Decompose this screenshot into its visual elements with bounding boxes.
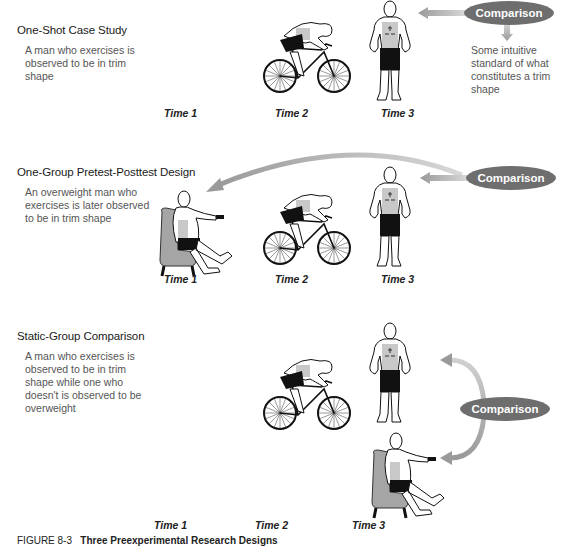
panel-1-title: One-Shot Case Study bbox=[17, 24, 127, 36]
panel-3-time-2: Time 2 bbox=[255, 519, 288, 531]
panel-2-time-3: Time 3 bbox=[381, 273, 414, 285]
arrow-left-icon bbox=[418, 6, 466, 20]
standing-trim-man-figure bbox=[368, 0, 414, 100]
panel-2-time-2: Time 2 bbox=[275, 273, 308, 285]
seated-overweight-man-figure bbox=[368, 432, 448, 522]
cyclist-figure bbox=[262, 18, 354, 98]
caption-label: FIGURE 8-3 bbox=[17, 535, 72, 546]
panel-1-time-3: Time 3 bbox=[381, 107, 414, 119]
arrow-down-icon bbox=[500, 25, 514, 41]
caption-title: Three Preexperimental Research Designs bbox=[80, 535, 277, 546]
panel-1-time-1: Time 1 bbox=[164, 107, 197, 119]
panel-1-description: A man who exercises is observed to be in… bbox=[25, 44, 135, 83]
panel-3-time-1: Time 1 bbox=[154, 519, 187, 531]
comparison-ellipse: Comparison bbox=[460, 397, 550, 421]
panel-2-description: An overweight man who exercises is later… bbox=[25, 186, 155, 225]
panel-2-title: One-Group Pretest-Posttest Design bbox=[17, 166, 195, 178]
standing-trim-man-figure bbox=[368, 166, 414, 266]
panel-2-time-1: Time 1 bbox=[164, 273, 197, 285]
arrow-left-icon bbox=[420, 171, 468, 185]
cyclist-figure bbox=[262, 190, 354, 270]
panel-3-description: A man who exercises is observed to be in… bbox=[25, 350, 150, 415]
standing-trim-man-figure bbox=[368, 322, 414, 422]
cyclist-figure bbox=[262, 355, 354, 435]
panel-1-time-2: Time 2 bbox=[275, 107, 308, 119]
figure-caption: FIGURE 8-3 Three Preexperimental Researc… bbox=[17, 535, 278, 546]
comparison-ellipse: Comparison bbox=[466, 166, 556, 190]
comparison-note: Some intuitive standard of what constitu… bbox=[471, 44, 561, 96]
panel-3-time-3: Time 3 bbox=[352, 519, 385, 531]
comparison-ellipse: Comparison bbox=[464, 1, 554, 25]
seated-overweight-man-figure bbox=[156, 190, 236, 280]
panel-3-title: Static-Group Comparison bbox=[17, 330, 144, 342]
